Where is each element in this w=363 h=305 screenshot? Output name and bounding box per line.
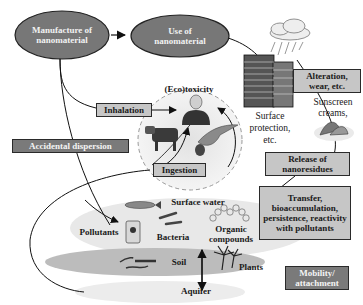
sunscreen-icon <box>314 122 354 141</box>
release-box: Release of nanoresidues <box>265 152 350 176</box>
rain-cloud-icon <box>270 19 310 55</box>
aquifer-zone <box>75 281 245 303</box>
inhalation-label: Inhalation <box>104 105 144 115</box>
mobility-label: Mobility/ attachment <box>289 268 345 288</box>
release-label: Release of nanoresidues <box>273 154 343 174</box>
transfer-box: Transfer, bioaccumulation, persistence, … <box>259 186 351 240</box>
inhalation-box: Inhalation <box>96 103 152 117</box>
use-label: Use of nanomaterial <box>145 26 215 46</box>
ecotoxicity-label: (Eco)toxicity <box>153 84 225 94</box>
mobility-box: Mobility/ attachment <box>285 266 349 290</box>
ingestion-label: Ingestion <box>162 165 198 175</box>
barrel-icon <box>126 221 140 243</box>
pollutants-label: Pollutants <box>73 227 125 237</box>
buildings-icon <box>244 55 293 107</box>
soil-label: Soil <box>166 257 192 267</box>
plants-label: Plants <box>233 262 269 272</box>
accidental-dispersion-box: Accidental dispersion <box>12 139 129 153</box>
transfer-label: Transfer, bioaccumulation, persistence, … <box>262 193 348 233</box>
surface-protection-label: Surface protection, etc. <box>246 110 294 146</box>
organic-compounds-label: Organic compounds <box>202 224 260 244</box>
manufacture-label: Manufacture of nanomaterial <box>27 25 97 45</box>
aquifer-label: Aquifer <box>173 286 219 296</box>
alteration-box: Alteration, wear, etc. <box>293 69 361 93</box>
bacteria-label: Bacteria <box>150 232 196 242</box>
use-node: Use of nanomaterial <box>130 14 230 58</box>
alteration-label: Alteration, wear, etc. <box>297 71 357 91</box>
ingestion-box: Ingestion <box>153 163 206 177</box>
manufacture-node: Manufacture of nanomaterial <box>14 10 110 60</box>
sunscreen-label: Sunscreen creams, <box>304 97 362 119</box>
surface-water-label: Surface water <box>163 197 233 207</box>
accidental-dispersion-label: Accidental dispersion <box>29 141 112 151</box>
